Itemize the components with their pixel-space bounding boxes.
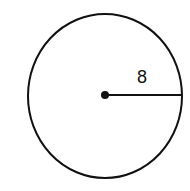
center-point <box>101 91 109 99</box>
circle-diagram: 8 <box>0 0 190 191</box>
radius-label: 8 <box>137 67 147 87</box>
